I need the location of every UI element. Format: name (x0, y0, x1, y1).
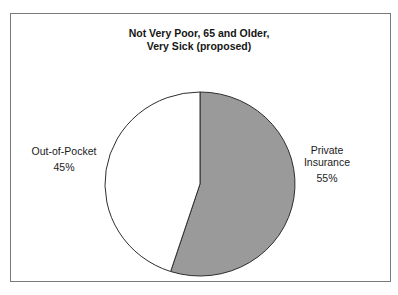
slice-label-private-line-2: Insurance (277, 156, 377, 168)
slice-label-out-of-pocket-text: Out-of-Pocket (14, 145, 114, 157)
slice-pct-out-of-pocket: 45% (14, 161, 114, 173)
slice-label-private-line-1: Private (277, 144, 377, 156)
slice-pct-private-insurance: 55% (277, 172, 377, 184)
slice-label-out-of-pocket: Out-of-Pocket 45% (14, 145, 114, 173)
slice-label-private-insurance: Private Insurance 55% (277, 144, 377, 184)
